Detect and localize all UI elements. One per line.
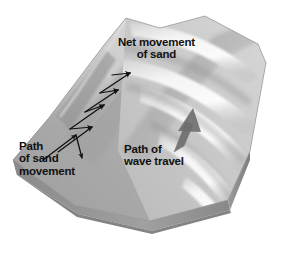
net-movement-line-1: Net movement [118,36,195,48]
path-of-sand-movement-label: Path of sand movement [19,140,75,177]
path-of-wave-line-2: wave travel [124,155,184,167]
path-of-sand-line-3: movement [19,165,75,177]
net-movement-of-sand-label: Net movement of sand [118,36,195,61]
path-of-sand-line-1: Path [19,140,75,152]
net-movement-line-2: of sand [118,48,195,60]
figure-container: Net movement of sand Path of sand moveme… [0,0,287,262]
path-of-wave-line-1: Path of [124,143,184,155]
path-of-sand-line-2: of sand [19,152,75,164]
path-of-wave-travel-label: Path of wave travel [124,143,184,168]
